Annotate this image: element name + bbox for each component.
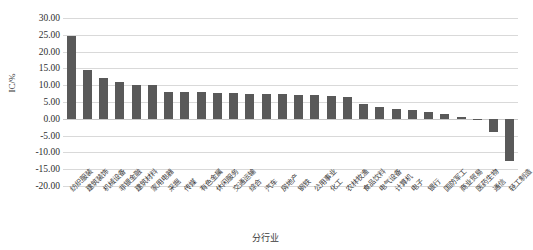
bar: [392, 109, 401, 119]
x-axis-tick-labels: 纺织服装建筑装饰机械设备非银金融建筑材料家用电器采掘传媒有色金属休闲服务交通运输…: [63, 188, 518, 236]
bar: [213, 93, 222, 119]
y-tick-label: 10.00: [2, 80, 60, 90]
bar: [408, 110, 417, 119]
bar: [327, 96, 336, 119]
bar: [310, 95, 319, 119]
y-tick-label: 15.00: [2, 63, 60, 73]
bar: [197, 92, 206, 119]
y-tick-label: -5.00: [2, 131, 60, 141]
bar: [148, 85, 157, 119]
bar: [489, 119, 498, 132]
bar: [99, 78, 108, 119]
bar: [457, 117, 466, 118]
y-tick-label: -15.00: [2, 164, 60, 174]
bar: [294, 95, 303, 119]
bar: [115, 82, 124, 119]
bar: [375, 107, 384, 119]
y-tick-label: -10.00: [2, 147, 60, 157]
bar: [83, 70, 92, 118]
bar: [262, 94, 271, 119]
bar: [229, 93, 238, 119]
y-tick-label: 0.00: [2, 114, 60, 124]
y-tick-label: 30.00: [2, 13, 60, 23]
bar-series: [63, 18, 518, 186]
x-axis-title: 分行业: [0, 231, 530, 244]
bar: [132, 85, 141, 119]
y-axis-tick-labels: 30.0025.0020.0015.0010.005.000.00-5.00-1…: [0, 18, 60, 186]
bar: [343, 97, 352, 119]
bar: [359, 104, 368, 118]
bar: [278, 94, 287, 119]
bar: [440, 114, 449, 118]
bar: [67, 36, 76, 119]
y-tick-label: -20.00: [2, 181, 60, 191]
bar: [245, 94, 254, 119]
plot-area: [63, 18, 518, 186]
bar: [473, 119, 482, 120]
y-tick-label: 5.00: [2, 97, 60, 107]
bar: [424, 112, 433, 118]
y-tick-label: 25.00: [2, 30, 60, 40]
bar: [180, 92, 189, 119]
bar: [164, 92, 173, 119]
y-tick-label: 20.00: [2, 47, 60, 57]
bar: [505, 119, 514, 161]
